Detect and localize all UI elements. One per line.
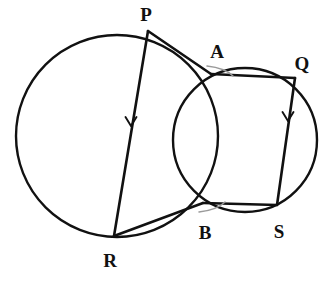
vertex-label-R: R xyxy=(103,250,117,271)
arrow-marker-on-PR xyxy=(126,117,137,126)
geometry-diagram-canvas: P A Q B S R xyxy=(0,0,333,282)
segment-AQ xyxy=(211,74,295,78)
vertex-label-B: B xyxy=(199,222,212,243)
large-circle xyxy=(16,35,218,237)
arrow-marker-on-QS xyxy=(283,112,294,121)
vertex-label-S: S xyxy=(274,221,285,242)
segment-PR xyxy=(114,31,148,236)
segment-RB xyxy=(114,203,203,236)
segment-QS xyxy=(277,78,295,205)
segment-PA xyxy=(148,31,211,74)
vertex-label-Q: Q xyxy=(295,53,310,74)
geometry-figure: P A Q B S R xyxy=(0,0,333,282)
vertex-label-A: A xyxy=(210,41,224,62)
small-circle xyxy=(173,68,317,212)
vertex-label-P: P xyxy=(140,4,152,25)
